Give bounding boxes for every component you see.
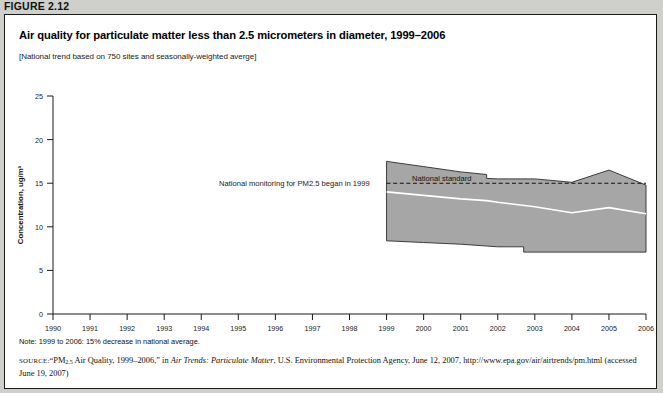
- source-title-italic: Air Trends: Particulate Matter: [171, 356, 274, 365]
- x-tick-2001: 2001: [453, 324, 469, 333]
- x-tick-1992: 1992: [119, 324, 135, 333]
- national-standard-annotation: National standard: [412, 174, 472, 183]
- source-prefix: SOURCE:: [19, 357, 50, 364]
- x-tick-2003: 2003: [527, 324, 543, 333]
- source-subscript: 2.5: [65, 359, 73, 365]
- y-axis-title: Concentration, ug/m³: [16, 165, 25, 244]
- x-tick-1993: 1993: [156, 324, 172, 333]
- y-axis-ticks: 25 20 15 10 5 0: [35, 92, 53, 319]
- x-tick-1994: 1994: [193, 324, 209, 333]
- y-tick-0: 0: [39, 310, 43, 319]
- y-tick-25: 25: [35, 92, 43, 101]
- x-tick-2005: 2005: [601, 324, 617, 333]
- x-tick-2002: 2002: [490, 324, 506, 333]
- source-quote-open: “PM: [50, 356, 66, 365]
- x-tick-2004: 2004: [564, 324, 580, 333]
- y-tick-15: 15: [35, 179, 43, 188]
- x-tick-1997: 1997: [304, 324, 320, 333]
- x-tick-1998: 1998: [342, 324, 358, 333]
- x-tick-1999: 1999: [379, 324, 395, 333]
- y-tick-20: 20: [35, 136, 43, 145]
- area-chart-svg: 25 20 15 10 5 0 Concentration, ug/m³: [5, 15, 658, 390]
- chart-source: SOURCE:“PM2.5 Air Quality, 1999–2006,” i…: [19, 355, 647, 380]
- chart-note: Note: 1999 to 2006: 15% decrease in nati…: [19, 337, 200, 346]
- x-axis-ticks: 1990 1991 1992 1993 1994 1995 1996 1997 …: [45, 314, 654, 333]
- y-tick-10: 10: [35, 223, 43, 232]
- monitoring-annotation: National monitoring for PM2.5 began in 1…: [219, 179, 370, 188]
- x-tick-2000: 2000: [416, 324, 432, 333]
- y-tick-5: 5: [39, 266, 43, 275]
- x-tick-1996: 1996: [267, 324, 283, 333]
- x-tick-2006: 2006: [638, 324, 654, 333]
- x-tick-1990: 1990: [45, 324, 61, 333]
- x-tick-1991: 1991: [82, 324, 98, 333]
- source-quote-rest: Air Quality, 1999–2006,” in: [73, 356, 171, 365]
- x-tick-1995: 1995: [230, 324, 246, 333]
- figure-label: FIGURE 2.12: [4, 0, 69, 12]
- figure-card: Air quality for particulate matter less …: [4, 14, 657, 389]
- chart-plot-area: 25 20 15 10 5 0 Concentration, ug/m³: [5, 15, 658, 390]
